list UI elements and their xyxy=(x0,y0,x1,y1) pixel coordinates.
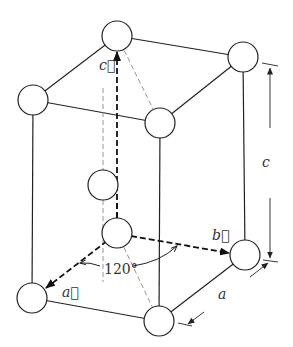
angle-arc-right xyxy=(133,246,177,266)
label-vector-a: a⃗ xyxy=(62,284,79,300)
edge-top-back-right xyxy=(117,36,243,57)
dimension-c-bottom-tick xyxy=(263,260,278,262)
atom-top-back xyxy=(102,21,132,51)
atom-bottom-left xyxy=(17,283,47,313)
edge-vertical-right xyxy=(243,57,245,255)
edge-bottom-right-front xyxy=(159,255,245,321)
edge-top-left-front xyxy=(33,100,160,123)
label-angle: 120° xyxy=(104,261,138,277)
edge-top-right-front xyxy=(160,57,243,123)
atom-bottom-right xyxy=(230,240,260,270)
atom-middle xyxy=(88,170,118,200)
edge-vertical-left xyxy=(32,100,33,298)
dimension-a-tick xyxy=(178,323,192,326)
dimension-c-top-tick xyxy=(262,63,278,66)
basis-vectors xyxy=(46,52,229,288)
label-vector-b: b⃗ xyxy=(212,227,229,243)
dimension-a-arrow-lower xyxy=(188,312,204,324)
label-dimension-a: a xyxy=(218,286,226,302)
edge-vertical-front xyxy=(159,123,160,321)
label-dimension-c: c xyxy=(262,154,270,170)
atom-bottom-front xyxy=(144,306,174,336)
atom-bottom-origin xyxy=(102,218,132,248)
label-vector-c: c⃗ xyxy=(99,57,115,73)
vector-a xyxy=(46,241,107,288)
hcp-unit-cell-diagram: c⃗ a⃗ b⃗ 120° c a xyxy=(0,0,293,347)
atom-top-left xyxy=(18,85,48,115)
atom-top-right xyxy=(228,42,258,72)
angle-arc-left xyxy=(80,263,100,266)
atom-top-front xyxy=(145,108,175,138)
edge-bottom-left-front xyxy=(32,298,159,321)
